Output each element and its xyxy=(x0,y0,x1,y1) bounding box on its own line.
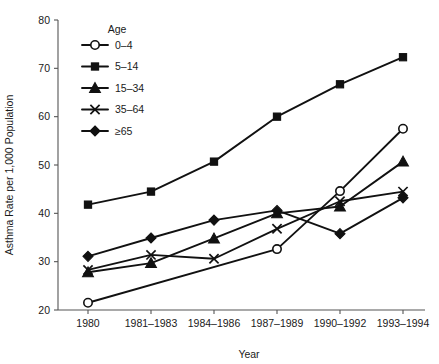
marker-open-circle xyxy=(273,245,281,253)
y-tick-label: 60 xyxy=(38,110,50,122)
legend-item-514[interactable]: 5–14 xyxy=(82,60,139,72)
legend-item-3564[interactable]: 35–64 xyxy=(82,103,144,115)
marker-filled-square xyxy=(84,201,91,208)
marker-filled-diamond xyxy=(146,233,156,243)
y-tick-label: 50 xyxy=(38,159,50,171)
series-line xyxy=(88,198,403,256)
marker-filled-diamond xyxy=(335,229,345,239)
series-line xyxy=(88,162,403,273)
legend-item-65[interactable]: ≥65 xyxy=(82,125,133,137)
marker-filled-square xyxy=(91,63,98,70)
x-tick-label: 1987–1989 xyxy=(251,317,304,329)
chart-legend: Age0–45–1415–3435–64≥65 xyxy=(82,23,144,137)
y-tick-label: 70 xyxy=(38,62,50,74)
y-axis: 20304050607080 xyxy=(38,14,58,316)
series-1 xyxy=(84,54,406,209)
marker-cross-x xyxy=(272,224,281,233)
legend-title: Age xyxy=(108,23,127,35)
chart-container: 20304050607080 19801981–19831984–1986198… xyxy=(0,0,439,364)
marker-filled-square xyxy=(273,113,280,120)
series-line xyxy=(88,57,403,204)
y-tick-label: 80 xyxy=(38,14,50,26)
series-4 xyxy=(83,193,408,261)
x-axis-title: Year xyxy=(238,348,260,360)
y-tick-label: 20 xyxy=(38,304,50,316)
legend-item-1534[interactable]: 15–34 xyxy=(82,82,144,94)
legend-item-label: 35–64 xyxy=(115,103,144,115)
x-axis: 19801981–19831984–19861987–19891990–1992… xyxy=(58,310,429,329)
x-tick-label: 1984–1986 xyxy=(188,317,241,329)
marker-filled-diamond xyxy=(83,251,93,261)
x-tick-label: 1993–1994 xyxy=(377,317,430,329)
marker-open-circle xyxy=(91,41,99,49)
legend-item-label: 5–14 xyxy=(115,60,139,72)
marker-open-circle xyxy=(84,299,92,307)
marker-filled-triangle xyxy=(398,156,409,166)
x-tick-label: 1981–1983 xyxy=(125,317,178,329)
x-tick-label: 1980 xyxy=(76,317,100,329)
asthma-rate-line-chart: 20304050607080 19801981–19831984–1986198… xyxy=(0,0,439,364)
y-tick-label: 40 xyxy=(38,207,50,219)
x-tick-label: 1990–1992 xyxy=(314,317,367,329)
marker-filled-diamond xyxy=(90,126,100,136)
marker-open-circle xyxy=(399,125,407,133)
marker-filled-square xyxy=(210,158,217,165)
legend-item-label: ≥65 xyxy=(115,125,133,137)
marker-filled-diamond xyxy=(209,215,219,225)
marker-filled-square xyxy=(399,54,406,61)
marker-filled-square xyxy=(336,81,343,88)
y-axis-title: Asthma Rate per 1,000 Population xyxy=(3,95,15,256)
marker-filled-square xyxy=(147,188,154,195)
marker-open-circle xyxy=(336,187,344,195)
legend-item-04[interactable]: 0–4 xyxy=(82,39,133,51)
y-tick-label: 30 xyxy=(38,255,50,267)
series-3 xyxy=(83,187,407,275)
legend-item-label: 15–34 xyxy=(115,82,144,94)
legend-item-label: 0–4 xyxy=(115,39,133,51)
